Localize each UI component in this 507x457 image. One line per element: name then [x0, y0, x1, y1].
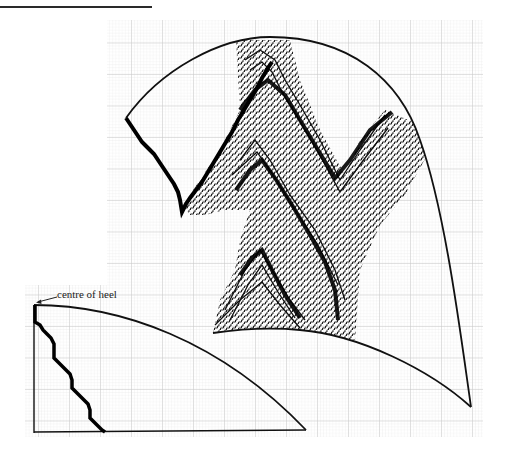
centre-of-heel-label: centre of heel	[57, 288, 117, 300]
heel-grid	[25, 285, 107, 437]
bargello-chart	[0, 0, 507, 457]
